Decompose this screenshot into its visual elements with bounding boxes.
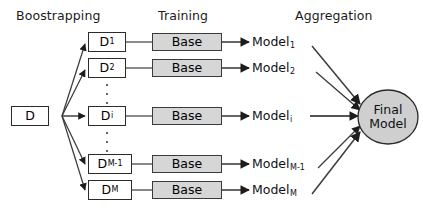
vertical-ellipsis-lower (102, 132, 112, 152)
dataset-sub-i: i (111, 112, 113, 120)
model-sub-1: 1 (290, 41, 295, 50)
model-label-1: Model1 (252, 36, 295, 50)
model-text-i: Model (252, 108, 290, 123)
ellipsis-dot (106, 102, 108, 104)
model-sub-m: M (290, 189, 297, 198)
vertical-ellipsis-upper (102, 84, 112, 104)
header-aggregation: Aggregation (295, 8, 373, 23)
ellipsis-dot (106, 150, 108, 152)
dataset-box-m-minus-1: DM-1 (88, 154, 132, 174)
model-text-m-minus-1: Model (252, 156, 290, 171)
ellipsis-dot (106, 93, 108, 95)
learner-to-model-arrows (222, 42, 249, 190)
ellipsis-dot (106, 141, 108, 143)
learner-label-1: Base (172, 36, 202, 49)
model-label-m: ModelM (252, 184, 297, 198)
model-text-2: Model (252, 60, 290, 75)
final-model-label: Final Model (358, 103, 418, 131)
learner-box-m-minus-1: Base (152, 155, 222, 173)
dataset-box-2: D2 (88, 58, 126, 78)
learner-box-1: Base (152, 33, 222, 51)
final-model-line2: Model (358, 117, 418, 131)
dataset-label-m-minus-1: D (97, 158, 107, 171)
ellipsis-dot (106, 132, 108, 134)
dataset-label-2: D (99, 62, 109, 75)
learner-label-m-minus-1: Base (172, 158, 202, 171)
source-dataset-box: D (11, 106, 49, 126)
model-sub-2: 2 (290, 67, 295, 76)
dataset-label-i: D (101, 110, 111, 123)
bagging-diagram: Boostrapping Training Aggregation D D1 B… (0, 0, 423, 217)
header-training: Training (158, 8, 208, 23)
learner-box-2: Base (152, 59, 222, 77)
bootstrap-fanout-arrows (62, 44, 85, 190)
model-label-i: Modeli (252, 110, 292, 124)
source-dataset-label: D (25, 110, 35, 123)
model-sub-i: i (290, 115, 292, 124)
dataset-sub-2: 2 (110, 64, 115, 72)
model-text-m: Model (252, 182, 290, 197)
dataset-box-m: DM (88, 180, 132, 200)
dataset-sub-m: M (112, 186, 119, 194)
model-label-2: Model2 (252, 62, 295, 76)
learner-label-2: Base (172, 62, 202, 75)
learner-label-m: Base (172, 184, 202, 197)
dataset-sub-1: 1 (110, 38, 115, 46)
header-bootstrapping: Boostrapping (16, 8, 100, 23)
dataset-label-1: D (99, 36, 109, 49)
dataset-label-m: D (101, 184, 111, 197)
dataset-box-i: Di (88, 106, 126, 126)
learner-box-i: Base (152, 107, 222, 125)
model-sub-m-minus-1: M-1 (290, 163, 305, 172)
dataset-sub-m-minus-1: M-1 (108, 160, 123, 168)
dataset-box-1: D1 (88, 32, 126, 52)
final-model-line1: Final (358, 103, 418, 117)
learner-label-i: Base (172, 110, 202, 123)
model-text-1: Model (252, 34, 290, 49)
ellipsis-dot (106, 84, 108, 86)
model-label-m-minus-1: ModelM-1 (252, 158, 305, 172)
learner-box-m: Base (152, 181, 222, 199)
aggregation-arrows (310, 46, 360, 194)
